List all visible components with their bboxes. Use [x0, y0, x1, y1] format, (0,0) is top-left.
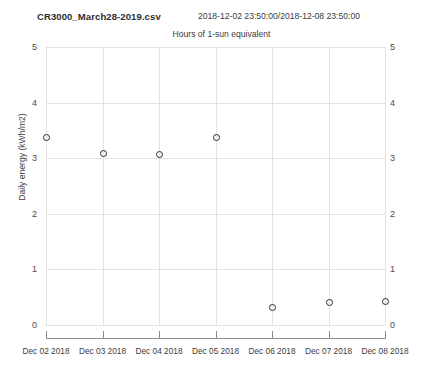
x-axis-tick	[385, 331, 386, 339]
y-axis-tick-label-left: 3	[23, 153, 37, 163]
gridline-vertical	[272, 47, 273, 325]
x-axis-tick-label: Dec 04 2018	[135, 346, 182, 356]
x-axis-tick	[216, 331, 217, 339]
gridline-vertical	[159, 47, 160, 325]
x-axis-tick-label: Dec 02 2018	[22, 346, 69, 356]
y-axis-tick-label-right: 2	[390, 209, 404, 219]
gridline-vertical	[216, 47, 217, 325]
data-point	[269, 304, 276, 311]
y-axis-tick-label-left: 2	[23, 209, 37, 219]
x-axis-tick-label: Dec 07 2018	[305, 346, 352, 356]
x-axis-tick-label: Dec 05 2018	[192, 346, 239, 356]
gridline-vertical	[385, 47, 386, 325]
x-axis-tick-label: Dec 03 2018	[79, 346, 126, 356]
y-axis-tick-label-left: 0	[23, 320, 37, 330]
date-range-label: 2018-12-02 23:50:00/2018-12-08 23:50:00	[198, 11, 360, 21]
chart-subtitle-text: Hours of 1-sun equivalent	[173, 29, 271, 39]
data-point	[326, 299, 333, 306]
y-axis-tick-label-right: 0	[390, 320, 404, 330]
gridline-vertical	[46, 47, 47, 325]
y-axis-tick-label-right: 3	[390, 153, 404, 163]
data-point	[213, 134, 220, 141]
data-point	[43, 134, 50, 141]
y-axis-tick-label-left: 1	[23, 264, 37, 274]
chart-subtitle: Hours of 1-sun equivalent	[0, 29, 425, 39]
gridline-vertical	[329, 47, 330, 325]
gridline-vertical	[103, 47, 104, 325]
y-axis-tick-label-left: 4	[23, 98, 37, 108]
x-axis-tick	[46, 331, 47, 339]
chart-figure: CR3000_March28-2019.csv 2018-12-02 23:50…	[0, 0, 425, 375]
data-point	[382, 298, 389, 305]
x-axis-tick	[329, 331, 330, 339]
x-axis-tick	[159, 331, 160, 339]
y-axis-tick-label-right: 4	[390, 98, 404, 108]
x-axis-tick-label: Dec 06 2018	[248, 346, 295, 356]
gridline-horizontal	[46, 325, 385, 326]
source-filename-label: CR3000_March28-2019.csv	[37, 11, 161, 22]
y-axis-tick-label-right: 5	[390, 42, 404, 52]
y-axis-tick-label-left: 5	[23, 42, 37, 52]
x-axis-tick	[103, 331, 104, 339]
x-axis-tick	[272, 331, 273, 339]
x-axis-tick-label: Dec 08 2018	[361, 346, 408, 356]
data-point	[100, 150, 107, 157]
y-axis-tick-label-right: 1	[390, 264, 404, 274]
plot-area	[46, 47, 385, 325]
